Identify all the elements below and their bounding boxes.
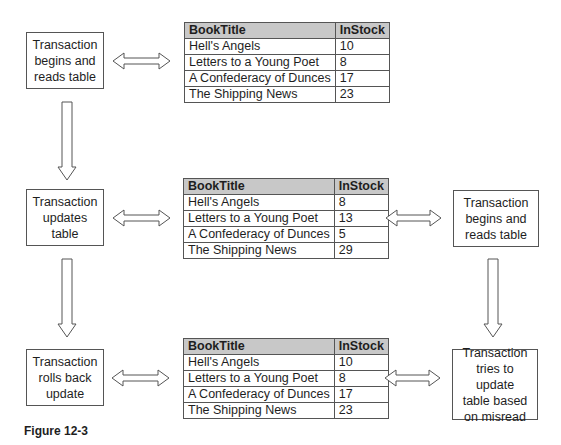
box-line: Transaction	[464, 195, 529, 211]
box-line: reads table	[33, 69, 98, 85]
table-header-row: BookTitle InStock	[184, 339, 389, 355]
figure-caption: Figure 12-3	[24, 424, 88, 438]
cell-title: Letters to a Young Poet	[184, 211, 335, 227]
cell-title: A Confederacy of Dunces	[184, 227, 335, 243]
table-row: The Shipping News29	[184, 243, 389, 259]
cell-instock: 17	[335, 71, 389, 87]
cell-instock: 8	[334, 371, 388, 387]
double-arrow-icon	[384, 369, 442, 387]
box-line: begins and	[33, 53, 98, 69]
cell-instock: 8	[335, 55, 389, 71]
column-header-instock: InStock	[335, 23, 389, 39]
table-header-row: BookTitle InStock	[185, 23, 390, 39]
cell-instock: 8	[334, 195, 388, 211]
cell-title: Letters to a Young Poet	[185, 55, 336, 71]
left-box-updates: Transaction updates table	[26, 189, 104, 246]
box-line: Transaction	[33, 37, 98, 53]
table-row: The Shipping News23	[185, 87, 390, 103]
table-row: Letters to a Young Poet13	[184, 211, 389, 227]
column-header-booktitle: BookTitle	[185, 23, 336, 39]
cell-title: The Shipping News	[184, 403, 335, 419]
box-line: update	[33, 386, 98, 402]
box-line: updates	[33, 210, 98, 226]
box-line: Transaction	[33, 354, 98, 370]
books-table-initial: BookTitle InStock Hell's Angels10 Letter…	[184, 22, 390, 103]
box-line: begins and	[464, 211, 529, 227]
down-arrow-icon	[483, 258, 503, 338]
cell-instock: 23	[334, 403, 388, 419]
cell-title: A Confederacy of Dunces	[185, 71, 336, 87]
books-table-updated: BookTitle InStock Hell's Angels8 Letters…	[183, 178, 389, 259]
column-header-booktitle: BookTitle	[184, 179, 335, 195]
box-line: Transaction	[456, 345, 534, 361]
cell-title: Letters to a Young Poet	[184, 371, 335, 387]
table-row: A Confederacy of Dunces17	[185, 71, 390, 87]
column-header-instock: InStock	[334, 339, 388, 355]
left-box-rolls-back: Transaction rolls back update	[26, 349, 104, 406]
cell-title: Hell's Angels	[184, 195, 335, 211]
column-header-booktitle: BookTitle	[184, 339, 335, 355]
box-line: on misread	[456, 409, 534, 425]
cell-instock: 23	[335, 87, 389, 103]
table-row: A Confederacy of Dunces17	[184, 387, 389, 403]
table-row: Hell's Angels8	[184, 195, 389, 211]
down-arrow-icon	[57, 258, 77, 338]
box-line: tries to update	[456, 361, 534, 393]
cell-instock: 29	[334, 243, 388, 259]
cell-title: Hell's Angels	[185, 39, 336, 55]
table-row: Hell's Angels10	[184, 355, 389, 371]
left-box-begins-reads: Transaction begins and reads table	[26, 32, 104, 89]
cell-title: Hell's Angels	[184, 355, 335, 371]
cell-instock: 10	[335, 39, 389, 55]
down-arrow-icon	[57, 101, 77, 181]
box-line: rolls back	[33, 370, 98, 386]
right-box-begins-reads: Transaction begins and reads table	[453, 190, 539, 247]
table-row: Hell's Angels10	[185, 39, 390, 55]
double-arrow-icon	[111, 369, 171, 387]
column-header-instock: InStock	[334, 179, 388, 195]
double-arrow-icon	[112, 209, 172, 227]
cell-instock: 17	[334, 387, 388, 403]
table-row: Letters to a Young Poet8	[185, 55, 390, 71]
cell-title: The Shipping News	[184, 243, 335, 259]
cell-instock: 10	[334, 355, 388, 371]
table-header-row: BookTitle InStock	[184, 179, 389, 195]
double-arrow-icon	[112, 52, 172, 70]
box-line: table based	[456, 393, 534, 409]
double-arrow-icon	[385, 209, 443, 227]
table-row: Letters to a Young Poet8	[184, 371, 389, 387]
box-line: table	[33, 226, 98, 242]
table-row: The Shipping News23	[184, 403, 389, 419]
cell-instock: 13	[334, 211, 388, 227]
cell-title: A Confederacy of Dunces	[184, 387, 335, 403]
cell-instock: 5	[334, 227, 388, 243]
right-box-tries-update: Transaction tries to update table based …	[452, 349, 538, 420]
cell-title: The Shipping News	[185, 87, 336, 103]
box-line: Transaction	[33, 194, 98, 210]
table-row: A Confederacy of Dunces5	[184, 227, 389, 243]
books-table-rolled-back: BookTitle InStock Hell's Angels10 Letter…	[183, 338, 389, 419]
box-line: reads table	[464, 227, 529, 243]
